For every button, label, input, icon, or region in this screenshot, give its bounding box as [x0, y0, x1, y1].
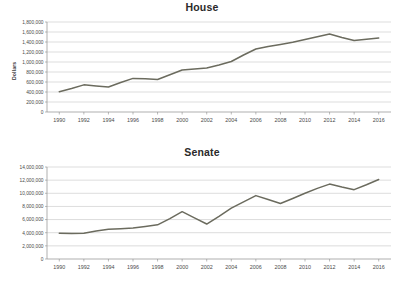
- senate-y-tick-label: 14,000,000: [19, 165, 43, 170]
- senate-y-tick-label: 6,000,000: [22, 217, 44, 222]
- house-x-tick-label: 1990: [53, 117, 65, 123]
- chart-page: House Dollars 0200,000400,000600,000800,…: [0, 0, 404, 294]
- senate-plot-area: 02,000,0004,000,0006,000,0008,000,00010,…: [0, 145, 404, 294]
- house-x-tick-label: 2000: [176, 117, 188, 123]
- house-x-tick-label: 2002: [201, 117, 213, 123]
- senate-x-tick-label: 1998: [152, 264, 164, 270]
- house-x-tick-label: 2004: [225, 117, 237, 123]
- house-y-tick-label: 1,800,000: [22, 20, 44, 25]
- house-plot-area: 0200,000400,000600,000800,0001,000,0001,…: [0, 0, 404, 147]
- senate-x-tick-label: 2006: [250, 264, 262, 270]
- senate-y-tick-label: 10,000,000: [19, 191, 43, 196]
- senate-chart: Senate Dollars 02,000,0004,000,0006,000,…: [0, 145, 404, 294]
- house-y-tick-label: 600,000: [26, 80, 44, 85]
- senate-x-tick-label: 2000: [176, 264, 188, 270]
- senate-x-tick-label: 2012: [324, 264, 336, 270]
- senate-x-tick-label: 2014: [348, 264, 360, 270]
- senate-x-tick-label: 2004: [225, 264, 237, 270]
- house-x-tick-label: 1992: [78, 117, 90, 123]
- house-y-tick-label: 200,000: [26, 100, 44, 105]
- house-x-tick-label: 2014: [348, 117, 360, 123]
- house-y-tick-label: 1,600,000: [22, 30, 44, 35]
- house-x-tick-label: 2016: [373, 117, 385, 123]
- senate-x-tick-label: 2008: [274, 264, 286, 270]
- senate-y-tick-label: 8,000,000: [22, 204, 44, 209]
- house-y-tick-label: 1,200,000: [22, 50, 44, 55]
- house-x-tick-label: 2010: [299, 117, 311, 123]
- house-y-tick-label: 400,000: [26, 90, 44, 95]
- house-x-tick-label: 2006: [250, 117, 262, 123]
- senate-x-tick-label: 1990: [53, 264, 65, 270]
- senate-x-tick-label: 2002: [201, 264, 213, 270]
- house-x-tick-label: 1996: [127, 117, 139, 123]
- senate-x-tick-label: 1996: [127, 264, 139, 270]
- house-x-tick-label: 2012: [324, 117, 336, 123]
- house-x-tick-label: 2008: [274, 117, 286, 123]
- house-x-tick-label: 1998: [152, 117, 164, 123]
- senate-y-tick-label: 2,000,000: [22, 244, 44, 249]
- house-y-tick-label: 1,400,000: [22, 40, 44, 45]
- house-x-tick-label: 1994: [102, 117, 114, 123]
- senate-x-tick-label: 1992: [78, 264, 90, 270]
- senate-x-tick-label: 1994: [102, 264, 114, 270]
- senate-y-tick-label: 4,000,000: [22, 231, 44, 236]
- senate-y-tick-label: 0: [41, 257, 44, 262]
- house-chart: House Dollars 0200,000400,000600,000800,…: [0, 0, 404, 147]
- house-y-tick-label: 800,000: [26, 70, 44, 75]
- senate-x-tick-label: 2010: [299, 264, 311, 270]
- house-data-line: [59, 34, 378, 92]
- house-y-tick-label: 1,000,000: [22, 60, 44, 65]
- house-y-tick-label: 0: [41, 110, 44, 115]
- senate-y-tick-label: 12,000,000: [19, 178, 43, 183]
- senate-x-tick-label: 2016: [373, 264, 385, 270]
